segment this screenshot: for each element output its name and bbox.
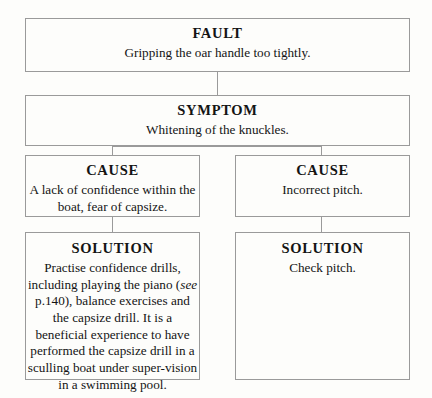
solution-left-text-italic: see (180, 277, 197, 292)
solution-left-text-part1: Practise confidence drills, including pl… (28, 260, 181, 292)
connector-symptom-horizontal-bus (112, 146, 321, 147)
fault-text: Gripping the oar handle too tightly. (26, 45, 409, 62)
symptom-box: SYMPTOM Whitening of the knuckles. (25, 95, 410, 146)
fault-box: FAULT Gripping the oar handle too tightl… (25, 18, 410, 72)
symptom-text: Whitening of the knuckles. (26, 122, 409, 139)
solution-right-box: SOLUTION Check pitch. (235, 232, 410, 380)
symptom-heading: SYMPTOM (26, 101, 409, 120)
connector-symptom-to-cause-left (112, 146, 113, 155)
cause-right-box: CAUSE Incorrect pitch. (235, 155, 410, 217)
cause-right-text: Incorrect pitch. (236, 182, 409, 199)
solution-left-box: SOLUTION Practise confidence drills, inc… (25, 232, 200, 380)
fault-heading: FAULT (26, 24, 409, 43)
solution-left-text-part2: p.140), balance exercises and the capsiz… (28, 293, 197, 391)
connector-cause-to-solution-right (321, 217, 322, 232)
cause-right-heading: CAUSE (236, 161, 409, 180)
flowchart-container: FAULT Gripping the oar handle too tightl… (0, 0, 432, 398)
solution-left-heading: SOLUTION (26, 239, 199, 258)
cause-left-box: CAUSE A lack of confidence within the bo… (25, 155, 200, 217)
cause-left-text: A lack of confidence within the boat, fe… (26, 182, 199, 215)
connector-cause-to-solution-left (112, 217, 113, 232)
solution-right-text: Check pitch. (236, 260, 409, 277)
solution-left-text: Practise confidence drills, including pl… (26, 260, 199, 393)
solution-right-heading: SOLUTION (236, 239, 409, 258)
connector-fault-to-symptom (217, 72, 218, 95)
connector-symptom-to-cause-right (321, 146, 322, 155)
cause-left-heading: CAUSE (26, 161, 199, 180)
